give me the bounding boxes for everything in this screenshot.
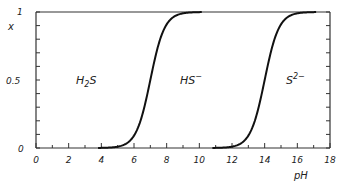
y-tick-0: 0 (18, 144, 24, 154)
axes: 024681012141618 (33, 12, 336, 165)
y-tick-0-5: 0.5 (6, 76, 21, 86)
x-axis-title: pH (293, 170, 308, 181)
x-tick-label: 12 (226, 155, 238, 165)
label-h2s: H2S (76, 74, 96, 89)
x-tick-label: 14 (259, 155, 271, 165)
titration-chart: 024681012141618 1 x 0.5 0 pH H2S HS− S2− (0, 0, 344, 185)
x-tick-label: 0 (33, 155, 39, 165)
y-tick-1: 1 (17, 7, 23, 17)
x-tick-label: 10 (194, 155, 206, 165)
label-hs-minus: HS− (180, 72, 202, 87)
x-tick-label: 2 (66, 155, 72, 165)
x-tick-label: 16 (292, 155, 304, 165)
label-s2-minus: S2− (286, 72, 305, 87)
x-tick-label: 6 (131, 155, 137, 165)
x-tick-label: 18 (324, 155, 336, 165)
y-axis-title: x (7, 21, 14, 32)
x-tick-label: 8 (164, 155, 170, 165)
x-tick-label: 4 (98, 155, 104, 165)
curves (98, 12, 316, 148)
